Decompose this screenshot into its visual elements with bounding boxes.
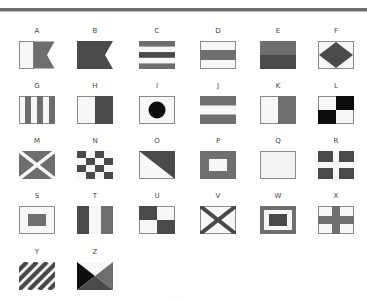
flag-v-icon <box>200 206 236 234</box>
flag-o-icon <box>139 151 175 179</box>
flag-f-icon <box>318 41 354 69</box>
flag-m-icon <box>19 151 55 179</box>
flag-d-icon <box>200 41 236 69</box>
flag-label: D <box>200 27 236 36</box>
flag-cell-p: P <box>200 137 240 183</box>
flag-cell-t: T <box>77 192 117 238</box>
flag-c-icon <box>139 41 175 69</box>
flag-label: V <box>200 192 236 201</box>
flag-z-icon <box>77 262 113 290</box>
flag-label: J <box>200 82 236 91</box>
flag-k-icon <box>260 96 296 124</box>
flag-cell-r: R <box>318 137 358 183</box>
flag-cell-d: D <box>200 27 240 73</box>
flag-h-icon <box>77 96 113 124</box>
flag-y-icon <box>19 262 55 290</box>
flag-label: H <box>77 82 113 91</box>
flag-a-icon <box>19 41 55 69</box>
flag-label: A <box>19 27 55 36</box>
flag-cell-c: C <box>139 27 179 73</box>
flag-cell-e: E <box>260 27 300 73</box>
flag-cell-a: A <box>19 27 59 73</box>
flag-label: G <box>19 82 55 91</box>
flag-label: P <box>200 137 236 146</box>
flag-x-icon <box>318 206 354 234</box>
flag-label: U <box>139 192 175 201</box>
flag-label: B <box>77 27 113 36</box>
flag-label: S <box>19 192 55 201</box>
flag-i-icon <box>139 96 175 124</box>
flag-w-icon <box>260 206 296 234</box>
flag-label: I <box>139 82 175 91</box>
flag-cell-s: S <box>19 192 59 238</box>
flag-label: R <box>318 137 354 146</box>
flag-s-icon <box>19 206 55 234</box>
flag-cell-j: J <box>200 82 240 128</box>
flag-cell-i: I <box>139 82 179 128</box>
flag-cell-g: G <box>19 82 59 128</box>
flag-cell-b: B <box>77 27 117 73</box>
flag-p-icon <box>200 151 236 179</box>
flag-cell-m: M <box>19 137 59 183</box>
flag-cell-u: U <box>139 192 179 238</box>
flag-label: L <box>318 82 354 91</box>
flag-label: N <box>77 137 113 146</box>
flag-cell-w: W <box>260 192 300 238</box>
flag-cell-q: Q <box>260 137 300 183</box>
flag-b-icon <box>77 41 113 69</box>
flag-cell-y: Y <box>19 248 59 294</box>
flag-t-icon <box>77 206 113 234</box>
flag-q-icon <box>260 151 296 179</box>
caption: · · · · <box>170 294 181 299</box>
flag-g-icon <box>19 96 55 124</box>
flag-label: Q <box>260 137 296 146</box>
flag-label: E <box>260 27 296 36</box>
flag-label: K <box>260 82 296 91</box>
flag-label: Z <box>77 248 113 257</box>
flag-label: O <box>139 137 175 146</box>
flag-r-icon <box>318 151 354 179</box>
flag-label: T <box>77 192 113 201</box>
flag-l-icon <box>318 96 354 124</box>
flag-cell-h: H <box>77 82 117 128</box>
flag-label: F <box>318 27 354 36</box>
flag-u-icon <box>139 206 175 234</box>
flag-label: Y <box>19 248 55 257</box>
flag-cell-f: F <box>318 27 358 73</box>
flag-label: W <box>260 192 296 201</box>
flag-cell-x: X <box>318 192 358 238</box>
flag-cell-n: N <box>77 137 117 183</box>
flag-j-icon <box>200 96 236 124</box>
flag-cell-o: O <box>139 137 179 183</box>
flag-cell-l: L <box>318 82 358 128</box>
flag-cell-v: V <box>200 192 240 238</box>
flag-n-icon <box>77 151 113 179</box>
flag-e-icon <box>260 41 296 69</box>
flag-label: M <box>19 137 55 146</box>
flag-label: C <box>139 27 175 36</box>
flag-cell-z: Z <box>77 248 117 294</box>
flag-cell-k: K <box>260 82 300 128</box>
flag-label: X <box>318 192 354 201</box>
top-rule-shadow <box>0 11 367 12</box>
